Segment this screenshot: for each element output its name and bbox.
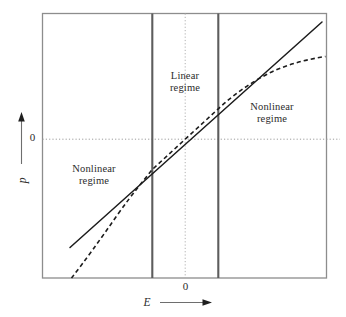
annotation-line-2: regime: [52, 175, 136, 187]
annotation-line-2: regime: [143, 82, 227, 94]
annotation-line-1: Nonlinear: [72, 163, 115, 174]
plot-canvas: [0, 0, 346, 317]
y-axis-zero-tick-label: 0: [26, 131, 39, 143]
x-axis-label: E: [139, 296, 155, 309]
up-arrow-icon: [18, 112, 25, 164]
linear-response-curve: [70, 22, 322, 248]
right-arrow-icon: [160, 299, 212, 306]
y-axis-label: p: [16, 172, 29, 188]
annotation-nonlinear-regime-left: Nonlinear regime: [52, 163, 136, 187]
annotation-line-2: regime: [230, 113, 314, 125]
annotation-line-1: Linear: [171, 70, 199, 81]
annotation-nonlinear-regime-right: Nonlinear regime: [230, 101, 314, 125]
figure-container: 0 0 p E Nonlinear regime Linear regime N…: [0, 0, 346, 317]
annotation-line-1: Nonlinear: [250, 101, 293, 112]
x-axis-zero-tick-label: 0: [179, 280, 192, 292]
annotation-linear-regime-center: Linear regime: [143, 70, 227, 94]
